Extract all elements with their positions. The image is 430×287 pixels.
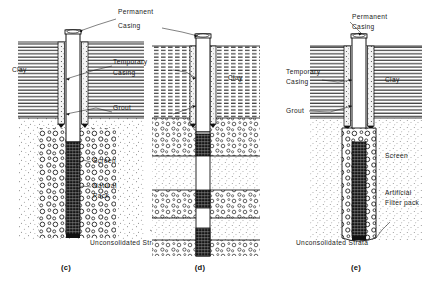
panel-c-permanent-casing (65, 30, 81, 142)
panel-e-label-permanent-casing-line1: Permanent (352, 13, 387, 20)
panel-c-label-screen: Screen (93, 157, 116, 164)
panel-d-label-clay: Clay (228, 74, 243, 82)
panel-c-label-natural-pack-line2: Pack (93, 192, 109, 199)
panel-e-label-screen: Screen (385, 152, 408, 159)
panel-c-caption: (c) (61, 263, 71, 272)
panel-e-caption: (e) (351, 263, 361, 272)
panel-c-unconsolidated-strata (18, 118, 144, 240)
panel-c-label-unconsolidated-strata: Unconsolidated Strata (90, 239, 162, 246)
panel-e-label-artificial-filter-pack-line1: Artificial (385, 189, 412, 196)
figure-canvas: (c) Clay Screen Natural Pack Unconsolida… (0, 0, 430, 287)
panel-e-label-permanent-casing-line2: Casing (352, 23, 375, 31)
panel-d-permanent-casing (195, 34, 211, 132)
panel-c-label-natural-pack-line1: Natural (93, 182, 117, 189)
panel-e-permanent-casing (351, 34, 367, 142)
panel-e-label-grout: Grout (286, 107, 304, 114)
shared-label-temporary-casing-line1: Temporary (113, 58, 148, 66)
panel-c-label-clay: Clay (12, 66, 27, 74)
panel-e-label-unconsolidated-strata: Unconsolidated Strata (296, 239, 368, 246)
panel-d-screens (196, 132, 210, 256)
panel-c-screen (66, 142, 80, 238)
shared-label-permanent-casing-line2: Casing (118, 22, 141, 30)
shared-label-permanent-casing-line1: Permanent (118, 8, 153, 15)
panel-e-label-temporary-casing-line2: Casing (286, 78, 309, 86)
shared-label-grout: Grout (113, 104, 131, 111)
panel-e-label-temporary-casing-line1: Temporary (286, 68, 321, 76)
panel-e-label-clay: Clay (385, 76, 400, 84)
shared-label-temporary-casing-line2: Casing (113, 69, 136, 77)
panel-e-label-artificial-filter-pack-line2: Filter pack (385, 199, 420, 207)
panel-d-caption: (d) (195, 263, 206, 272)
well-construction-figure: (c) Clay Screen Natural Pack Unconsolida… (0, 0, 430, 287)
panel-d: (d) Clay (152, 28, 260, 272)
panel-e-screen (352, 142, 366, 240)
